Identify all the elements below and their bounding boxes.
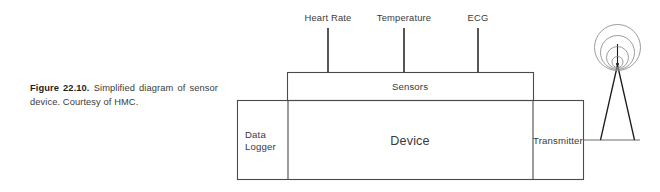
tower-leg-right [618,65,635,140]
antenna-tower [595,25,641,141]
sensor-label-heart-rate: Heart Rate [305,12,352,23]
sensor-label-temperature: Temperature [377,12,431,23]
device-box-label: Device [390,134,429,148]
sensor-device-diagram: Heart Rate Temperature ECG Sensors Data … [0,0,660,192]
sensor-label-ecg: ECG [468,12,489,23]
antenna-emitter-point [616,62,619,65]
data-logger-label-line2: Logger [245,141,276,152]
transmitter-box-label: Transmitter [533,135,583,146]
figure-page: Figure 22.10. Simplified diagram of sens… [0,0,660,192]
sensors-box-label: Sensors [392,81,428,92]
tower-leg-left [601,65,618,140]
data-logger-label-line1: Data [245,129,266,140]
